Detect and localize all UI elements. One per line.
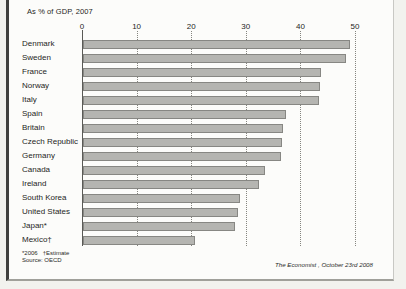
category-label: Czech Republic	[22, 137, 78, 147]
bar	[83, 180, 259, 189]
category-label: Japan*	[22, 221, 47, 231]
bar	[83, 96, 319, 105]
bar	[83, 194, 240, 203]
category-label: Sweden	[22, 53, 51, 63]
category-label: United States	[22, 207, 70, 217]
bar	[83, 110, 286, 119]
chart-panel: As % of GDP, 2007 01020304050 DenmarkSwe…	[6, 0, 394, 281]
x-axis-tick-label: 0	[80, 22, 84, 31]
category-label: Italy	[22, 95, 37, 105]
bar	[83, 236, 195, 245]
plot-area: 01020304050 DenmarkSwedenFranceNorwayIta…	[9, 0, 393, 281]
bar	[83, 68, 321, 77]
bar	[83, 54, 346, 63]
category-label: Mexico†	[22, 235, 52, 245]
category-label: Britain	[22, 123, 45, 133]
category-label: Germany	[22, 151, 55, 161]
x-axis-tick-label: 10	[132, 22, 141, 31]
publication-credit: The Economist , October 23rd 2008	[275, 261, 373, 268]
bar	[83, 40, 350, 49]
bar	[83, 124, 283, 133]
x-axis-tick-label: 40	[296, 22, 305, 31]
footnote-source: Source: OECD	[22, 257, 62, 263]
category-label: Ireland	[22, 179, 46, 189]
bar	[83, 222, 235, 231]
category-label: South Korea	[22, 193, 66, 203]
category-label: Denmark	[22, 39, 54, 49]
bar	[83, 82, 320, 91]
bar	[83, 166, 265, 175]
category-label: Canada	[22, 165, 50, 175]
bar	[83, 208, 238, 217]
x-axis-tick-label: 50	[351, 22, 360, 31]
x-axis-tick-label: 30	[241, 22, 250, 31]
category-label: Spain	[22, 109, 42, 119]
bar	[83, 152, 281, 161]
gridline	[355, 31, 356, 246]
x-axis-tick-label: 20	[187, 22, 196, 31]
bar	[83, 138, 282, 147]
category-label: France	[22, 67, 47, 77]
footnote-note: *2006 †Estimate	[22, 250, 69, 256]
gridline	[300, 31, 301, 246]
category-label: Norway	[22, 81, 49, 91]
